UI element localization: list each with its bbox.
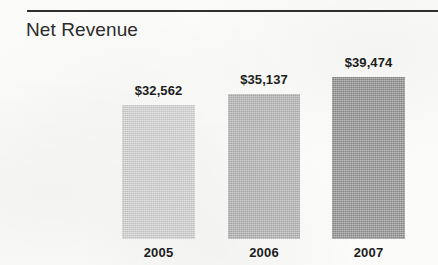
- bar-rect-2007: [332, 77, 405, 239]
- bar-category-label-2007: 2007: [354, 245, 384, 260]
- chart-title: Net Revenue: [26, 18, 138, 42]
- bar-category-label-2005: 2005: [144, 245, 174, 260]
- net-revenue-chart-figure: Net Revenue $32,562 2005 $35,137 2006 $3…: [0, 0, 438, 265]
- bar-rect-2006: [228, 94, 300, 239]
- bar-2006: $35,137 2006: [228, 94, 300, 239]
- bar-2007: $39,474 2007: [332, 77, 405, 239]
- bar-value-label-2005: $32,562: [135, 83, 183, 98]
- title-top-rule: [27, 10, 438, 12]
- bar-category-label-2006: 2006: [249, 245, 279, 260]
- bar-value-label-2006: $35,137: [240, 72, 288, 87]
- bar-value-label-2007: $39,474: [345, 55, 393, 70]
- bar-2005: $32,562 2005: [122, 105, 195, 239]
- bar-rect-2005: [122, 105, 195, 239]
